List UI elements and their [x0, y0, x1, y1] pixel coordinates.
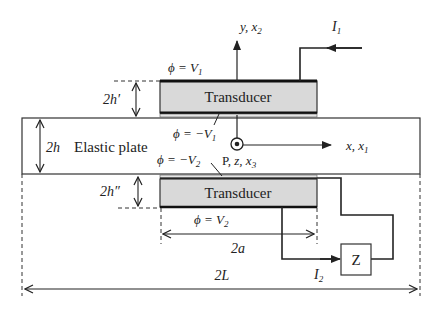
dim-plate-length-label: 2L [215, 268, 230, 283]
plate-label: Elastic plate [74, 139, 148, 155]
y-axis-label: y, x2 [238, 19, 262, 36]
plate-transducer-diagram: Elastic plate Transducer Transducer ϕ = … [0, 0, 442, 309]
dim-top-thickness: 2h′ [103, 81, 160, 116]
dim-bottom-thickness-label: 2h″ [100, 184, 120, 199]
dim-electrode-width-label: 2a [231, 241, 245, 256]
bottom-transducer: Transducer [160, 175, 317, 207]
bottom-transducer-label: Transducer [205, 185, 272, 201]
dim-plate-thickness-label: 2h [46, 140, 60, 155]
phi-top-outer-label: ϕ = V1 [168, 60, 202, 77]
impedance-label: Z [351, 252, 360, 268]
top-transducer: Transducer [160, 81, 317, 117]
dim-bottom-thickness: 2h″ [100, 177, 160, 208]
phi-top-inner-label: ϕ = −V1 [173, 126, 216, 143]
phi-bottom-outer-label: ϕ = V2 [194, 212, 229, 229]
dim-top-thickness-label: 2h′ [103, 92, 121, 107]
point-z-label: P, z, x3 [222, 153, 257, 170]
current-i2-label: I2 [313, 267, 324, 284]
phi-bottom-inner-label: ϕ = −V2 [157, 152, 201, 169]
current-i1-label: I1 [331, 19, 341, 36]
input-wire-i1: I1 [300, 19, 362, 81]
top-transducer-label: Transducer [205, 89, 272, 105]
dim-electrode-width: 2a [161, 208, 317, 256]
